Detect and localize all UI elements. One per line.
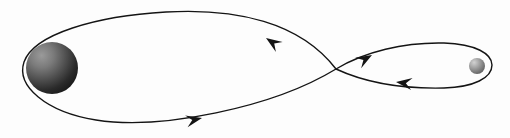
diagram-canvas xyxy=(0,0,510,138)
arrow-upper-left-head xyxy=(263,33,283,52)
trajectory-diagram: Figure-eight orbital trajectory xyxy=(0,0,510,138)
arrow-lower-left xyxy=(185,112,203,127)
direction-arrows xyxy=(185,33,413,127)
trajectory-paths xyxy=(23,11,492,122)
arrow-lower-left-head xyxy=(185,112,203,127)
large-body-sphere xyxy=(26,42,78,94)
small-body-sphere xyxy=(469,58,485,74)
arrow-upper-left xyxy=(263,33,283,52)
small-loop-path xyxy=(336,43,492,88)
celestial-bodies xyxy=(26,42,485,94)
